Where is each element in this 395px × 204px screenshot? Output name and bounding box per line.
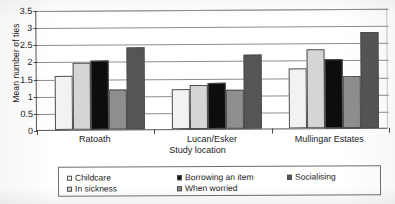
y-tick-mark <box>34 80 38 81</box>
bar <box>289 68 307 128</box>
legend-item: Borrowing an item <box>177 172 254 182</box>
x-tick-mark <box>389 128 390 133</box>
plot-area-wrapper: 00.511.522.533.5 <box>36 11 388 131</box>
bar-chart-figure: Mean number of ties 00.511.522.533.5 Rat… <box>0 0 395 204</box>
y-tick-label: 2.5 <box>20 40 33 50</box>
bar <box>190 85 208 129</box>
plot-area: 00.511.522.533.5 <box>35 9 388 131</box>
legend-item: Socialising <box>287 171 336 181</box>
y-axis-title: Mean number of ties <box>11 3 21 123</box>
legend-swatch-icon <box>177 175 182 180</box>
bar <box>172 89 190 129</box>
x-category-label: Lucan/Esker <box>153 134 270 144</box>
x-tick-mark <box>272 129 273 134</box>
bar <box>343 76 361 129</box>
bar <box>361 32 380 128</box>
y-tick-mark <box>34 62 38 63</box>
y-tick-label: 0.5 <box>20 109 33 119</box>
bar <box>244 55 262 129</box>
y-tick-mark <box>33 11 37 12</box>
y-tick-mark <box>33 45 37 46</box>
plot-skew-layer: 00.511.522.533.5 <box>35 9 388 131</box>
legend-label: Childcare <box>75 172 111 182</box>
legend-label: Borrowing an item <box>185 172 254 182</box>
y-tick-mark <box>33 28 37 29</box>
legend-swatch-icon <box>287 174 292 179</box>
x-axis-title: Study location <box>0 145 395 155</box>
legend-item: When worried <box>177 183 237 193</box>
legend-label: When worried <box>185 183 237 193</box>
legend: ChildcareIn sicknessBorrowing an itemWhe… <box>58 165 381 196</box>
x-category-label: Mullingar Estates <box>271 134 388 144</box>
legend-swatch-icon <box>67 175 72 180</box>
x-category-label: Ratoath <box>36 134 153 144</box>
y-tick-label: 3.5 <box>20 6 33 16</box>
bar <box>72 63 90 130</box>
bar <box>54 76 72 130</box>
bar-group <box>289 8 380 129</box>
bar <box>307 49 325 128</box>
bar <box>325 60 343 129</box>
bar <box>90 61 108 130</box>
bar-groups <box>36 9 387 11</box>
y-tick-mark <box>34 97 38 98</box>
legend-label: In sickness <box>75 183 117 193</box>
legend-item: In sickness <box>67 183 117 193</box>
y-tick-label: 1.5 <box>20 75 33 85</box>
y-tick-label: 0 <box>28 126 33 136</box>
legend-label: Socialising <box>295 171 336 181</box>
bar <box>126 47 145 129</box>
legend-swatch-icon <box>177 186 182 191</box>
legend-item: Childcare <box>67 172 111 182</box>
y-tick-label: 3 <box>27 23 32 33</box>
bar-group <box>54 9 145 130</box>
bar <box>226 90 244 129</box>
bar <box>208 83 226 129</box>
bar-group <box>171 9 262 130</box>
bar <box>108 89 126 129</box>
y-tick-mark <box>34 114 38 115</box>
y-tick-label: 1 <box>28 92 33 102</box>
y-tick-label: 2 <box>28 57 33 67</box>
legend-swatch-icon <box>67 186 72 191</box>
